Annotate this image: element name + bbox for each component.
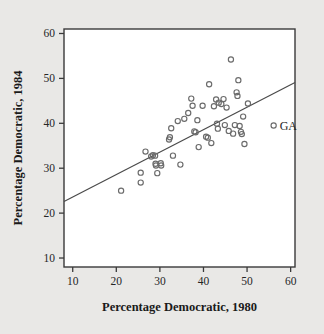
- x-tick-label: 50: [241, 275, 253, 287]
- plot-frame: [64, 29, 295, 267]
- x-tick-label: 40: [198, 275, 210, 287]
- x-tick-label: 10: [67, 275, 79, 287]
- y-tick-label: 40: [44, 117, 56, 129]
- x-tick-label: 30: [154, 275, 166, 287]
- point-label-ga: GA: [280, 119, 298, 133]
- x-axis-title: Percentage Democratic, 1980: [102, 300, 257, 314]
- x-tick-label: 20: [111, 275, 123, 287]
- point-annotations: GA: [280, 119, 298, 133]
- y-tick-label: 10: [44, 252, 56, 264]
- y-tick-label: 20: [44, 207, 56, 219]
- x-tick-label: 60: [285, 275, 297, 287]
- y-tick-label: 30: [44, 162, 56, 174]
- y-tick-label: 50: [44, 72, 56, 84]
- scatter-plot-figure: 102030405060 102030405060 GA Percentage …: [0, 0, 324, 334]
- y-axis-title: Percentage Democratic, 1984: [11, 70, 25, 226]
- plot-canvas: 102030405060 102030405060 GA Percentage …: [0, 0, 324, 334]
- y-tick-label: 60: [44, 27, 56, 39]
